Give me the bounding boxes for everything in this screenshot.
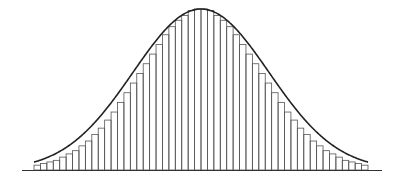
histogram-bar (60, 157, 66, 170)
histogram-bar (124, 93, 130, 170)
histogram-bar (118, 102, 124, 170)
histogram-bar (105, 120, 111, 170)
histogram-bar (169, 27, 175, 170)
histogram-bar (40, 164, 46, 170)
histogram-bar (214, 15, 220, 170)
histogram-bar (291, 120, 297, 170)
histogram-bar (272, 93, 278, 170)
histogram-bar (323, 151, 329, 170)
histogram-bar (53, 160, 59, 170)
histogram-bar (111, 112, 117, 170)
histogram-bar (79, 146, 85, 170)
histogram-bar (227, 27, 233, 170)
histogram-bar (265, 83, 271, 170)
histogram-bar (85, 141, 91, 170)
histogram-bar (317, 146, 323, 170)
histogram-bar (92, 135, 98, 170)
histogram-bar (162, 35, 168, 170)
histogram-bar (201, 9, 207, 170)
histogram-bar (182, 15, 188, 170)
histogram-bar (47, 162, 53, 170)
histogram-bar (329, 154, 335, 170)
histogram-bar (66, 154, 72, 170)
histogram-bar (34, 165, 40, 170)
histogram-bar (355, 164, 361, 170)
histogram-bar (259, 73, 265, 170)
histogram-bar (207, 11, 213, 170)
histogram-bar (240, 44, 246, 170)
histogram-bar (130, 83, 136, 170)
histogram-bar (233, 35, 239, 170)
histogram-bar (98, 128, 104, 170)
histogram-bar (137, 73, 143, 170)
histogram-bar (143, 64, 149, 170)
histogram-bar (150, 54, 156, 170)
histogram-bar (220, 20, 226, 170)
histogram-bar (252, 64, 258, 170)
normal-distribution-histogram (0, 0, 401, 180)
histogram-bar (188, 11, 194, 170)
histogram-bar (362, 165, 368, 170)
histogram-bar (246, 54, 252, 170)
histogram-bar (342, 160, 348, 170)
histogram-bar (304, 135, 310, 170)
histogram-bar (310, 141, 316, 170)
histogram-bar (336, 157, 342, 170)
histogram-bar (349, 162, 355, 170)
histogram-bar (73, 151, 79, 170)
histogram-bar (156, 44, 162, 170)
histogram-bar (297, 128, 303, 170)
histogram-bar (175, 20, 181, 170)
histogram-bar (285, 112, 291, 170)
histogram-bars (34, 9, 368, 170)
histogram-bar (195, 9, 201, 170)
histogram-bar (278, 102, 284, 170)
